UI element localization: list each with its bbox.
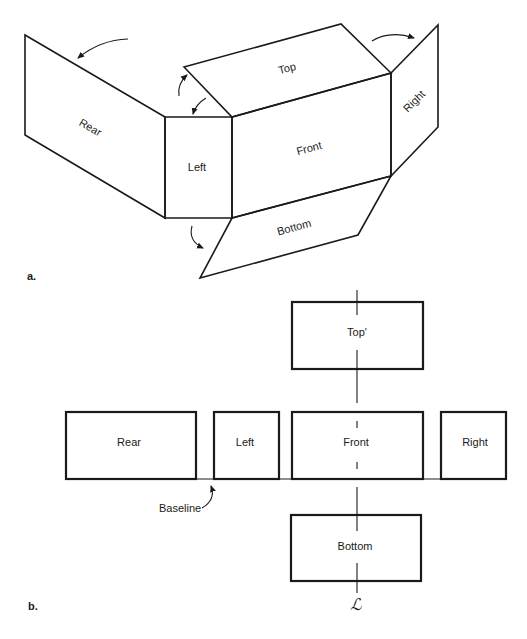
fold-arrow-right-icon (372, 35, 414, 41)
face-label-right: Right (401, 88, 428, 115)
face-label-top: Top (277, 60, 297, 76)
view-label-front: Front (343, 436, 369, 448)
part-b-orthographic-layout: Top' Rear Left Front Right Bottom Baseli… (28, 290, 506, 614)
view-label-left: Left (236, 436, 254, 448)
fold-arrow-bottom-icon (191, 226, 203, 248)
face-label-bottom: Bottom (276, 217, 313, 238)
part-b-label: b. (28, 600, 38, 612)
fold-arrow-rear-icon (78, 39, 128, 58)
orthographic-projection-diagram: Rear Left Top Front Right Bottom a. Top'… (0, 0, 527, 639)
fold-arrow-left-icon (193, 98, 206, 114)
fold-arrow-top-icon (179, 75, 187, 96)
part-a-label: a. (27, 270, 36, 282)
face-label-rear: Rear (77, 116, 104, 138)
view-label-rear: Rear (117, 436, 141, 448)
baseline-label: Baseline (159, 502, 201, 514)
part-a-unfolding-box: Rear Left Top Front Right Bottom a. (25, 24, 438, 282)
view-label-right: Right (462, 436, 488, 448)
face-label-left: Left (188, 161, 206, 173)
face-label-front: Front (295, 139, 323, 157)
view-label-top: Top' (347, 326, 367, 338)
centerline-symbol-icon: ℒ (350, 595, 362, 614)
baseline-callout-arrow-icon (202, 486, 212, 508)
view-label-bottom: Bottom (338, 540, 373, 552)
